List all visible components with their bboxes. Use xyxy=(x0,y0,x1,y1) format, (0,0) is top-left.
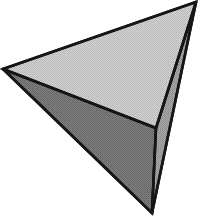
figure-canvas xyxy=(0,0,202,216)
tetrahedron-diagram xyxy=(0,0,202,216)
